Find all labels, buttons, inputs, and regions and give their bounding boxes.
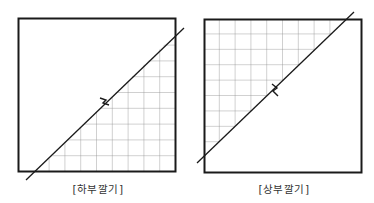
- upper-tiling-diagram: [197, 12, 362, 173]
- diagram-canvas: [0, 0, 374, 203]
- caption-lower-tiling: [하부깔기]: [38, 181, 158, 196]
- lower-tiling-diagram: [18, 18, 184, 180]
- grid-hatch-lower: [18, 18, 176, 172]
- caption-upper-tiling: [상부깔기]: [224, 181, 344, 196]
- tiling-diagram-figure: [하부깔기] [상부깔기]: [0, 0, 374, 203]
- grid-hatch-upper: [204, 19, 362, 173]
